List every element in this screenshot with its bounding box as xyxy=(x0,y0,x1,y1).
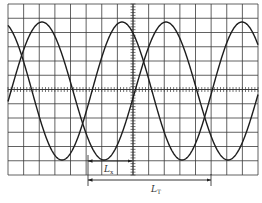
measurement-label-LT: LT xyxy=(150,184,161,195)
measurement-label-Lx: Lx xyxy=(103,164,114,175)
center-axes xyxy=(8,4,258,175)
oscilloscope-display: LxLT xyxy=(0,0,262,203)
